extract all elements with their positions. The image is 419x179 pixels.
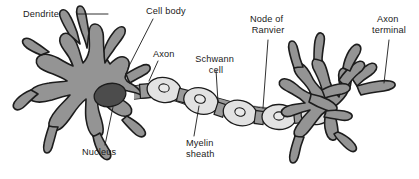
- nucleus-label: Nucleus: [82, 147, 116, 157]
- axon-label: Axon: [153, 49, 175, 59]
- neuron-illustration: Dendrite Cell body Axon Schwann cell Nod…: [0, 0, 419, 179]
- cell-body-label: Cell body: [146, 6, 186, 16]
- leader-cell-body: [128, 19, 153, 68]
- schwann-cell-label: Schwann cell: [195, 54, 237, 75]
- leader-node-of-ranvier: [263, 40, 268, 108]
- neuron-diagram: Dendrite Cell body Axon Schwann cell Nod…: [0, 0, 419, 179]
- myelin-sheath-label: Myelin sheath: [186, 138, 216, 159]
- leader-nucleus: [105, 107, 113, 145]
- axon-terminal-label: Axon terminal: [372, 14, 406, 35]
- node-of-ranvier-label: Node of Ranvier: [250, 14, 286, 35]
- terminal-branches: [279, 33, 395, 163]
- leader-axon-terminal: [384, 40, 389, 83]
- dendrite-label: Dendrite: [23, 9, 59, 19]
